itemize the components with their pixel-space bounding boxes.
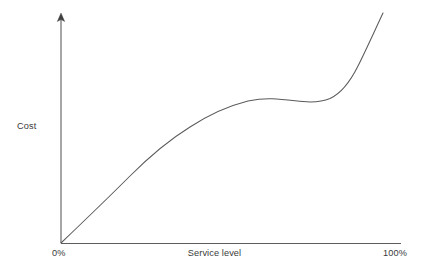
chart-plot-area xyxy=(0,0,429,273)
chart-figure: Cost Service level 0% 100% xyxy=(0,0,429,273)
cost-curve xyxy=(61,13,383,243)
x-axis-tick-label-min: 0% xyxy=(52,248,65,259)
y-axis-label: Cost xyxy=(17,121,36,132)
x-axis-tick-label-max: 100% xyxy=(383,248,407,259)
